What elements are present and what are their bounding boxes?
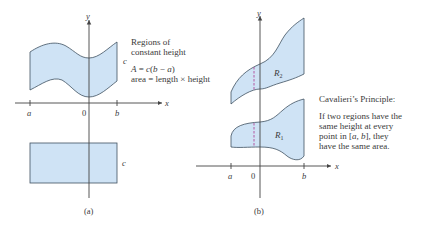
tick-label-origin: 0 [82,108,86,118]
cavalieri-line2: same height at every [319,121,394,131]
height-label-wave: c [123,56,127,66]
rectangle-region [30,143,117,183]
area-formula: A = c(b − a) [130,64,175,74]
wavy-region [30,42,117,97]
cavalieri-figure: y x a 0 b c c Regions of constant height… [0,0,422,227]
tick-label-b: b [302,171,306,181]
tick-label-a: a [228,171,232,181]
panel-b: y x a 0 b R2 R1 Cavalieri’s Principle: I… [196,8,402,216]
caption-b: (b) [254,206,264,216]
tick-label-b: b [115,108,119,118]
cavalieri-line4: have the same area. [319,141,389,151]
area-text: area = length × height [131,74,211,84]
caption-a: (a) [84,206,94,216]
panel-a: y x a 0 b c c Regions of constant height… [15,11,211,216]
tick-label-origin: 0 [251,171,255,181]
cavalieri-line1: If two regions have the [319,111,402,121]
y-axis-label: y [85,11,90,21]
tick-label-a: a [27,108,31,118]
x-axis-label: x [164,98,169,108]
x-axis-label: x [334,161,339,171]
cavalieri-line3: point in [a, b], they [319,131,389,141]
annotation-line2: constant height [131,47,186,57]
cavalieri-title: Cavalieri’s Principle: [319,94,395,104]
region-r1 [231,99,304,160]
annotation-line1: Regions of [131,37,170,47]
y-axis-label: y [256,8,261,18]
region-r2 [231,18,304,104]
height-label-rect: c [122,158,126,168]
